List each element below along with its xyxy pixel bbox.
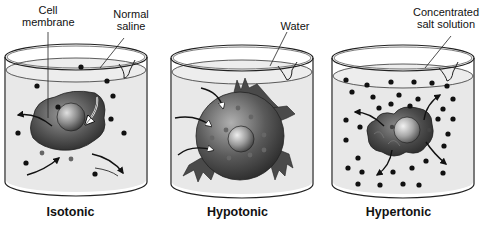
label-concentrated-salt-solution: Concentrated salt solution xyxy=(408,6,484,30)
label-normal-saline: Normal saline xyxy=(108,8,154,32)
label-line: Concentrated xyxy=(408,6,484,18)
label-line: membrane xyxy=(22,16,74,28)
panel-title-hypertonic: Hypertonic xyxy=(318,205,479,219)
beaker-isotonic-illustration xyxy=(0,0,161,225)
panel-title-hypotonic: Hypotonic xyxy=(157,205,318,219)
label-line: salt solution xyxy=(408,18,484,30)
panel-hypotonic: Water Hypotonic xyxy=(161,0,322,225)
label-line: Cell xyxy=(22,4,74,16)
panel-hypertonic: Concentrated salt solution Hypertonic xyxy=(322,0,484,225)
beaker-hypertonic-illustration xyxy=(322,0,484,225)
panel-title-isotonic: Isotonic xyxy=(0,205,151,219)
label-line: Normal xyxy=(108,8,154,20)
label-cell-membrane: Cell membrane xyxy=(22,4,74,28)
beaker-hypotonic-illustration xyxy=(161,0,322,225)
label-water: Water xyxy=(275,20,315,32)
label-line: saline xyxy=(108,20,154,32)
panel-isotonic: Cell membrane Normal saline Isotonic xyxy=(0,0,161,225)
